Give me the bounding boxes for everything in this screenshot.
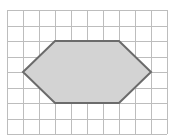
shaded-hexagon	[23, 41, 151, 103]
grid-hexagon-figure	[0, 0, 169, 140]
